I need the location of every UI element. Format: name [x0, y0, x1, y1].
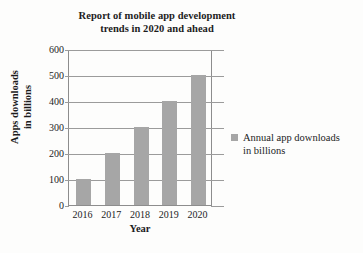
bar: [191, 75, 206, 205]
y-axis-tick-mark-right: [211, 50, 224, 51]
y-axis-tick-label: 300: [38, 123, 64, 133]
bar: [162, 101, 177, 205]
x-axis-title: Year: [68, 223, 212, 235]
y-axis-tick-mark-right: [211, 128, 224, 129]
gridline: [69, 102, 211, 103]
y-axis-tick-label: 400: [38, 97, 64, 107]
y-axis-tick-mark-right: [211, 180, 224, 181]
gridline: [69, 50, 211, 51]
y-axis-tick-mark-right: [211, 154, 224, 155]
y-axis-tick-mark: [65, 102, 69, 103]
y-axis-tick-mark: [65, 206, 69, 207]
chart-title: Report of mobile app development trends …: [46, 9, 268, 35]
y-axis-tick-label: 200: [38, 149, 64, 159]
y-axis-tick-label: 500: [38, 71, 64, 81]
x-axis-tick-labels: 20162017201820192020: [68, 209, 212, 223]
y-axis-tick-mark: [65, 154, 69, 155]
y-axis-tick-mark: [65, 76, 69, 77]
bar: [105, 153, 120, 205]
y-axis-tick-mark: [65, 180, 69, 181]
y-axis-tick-mark-right: [211, 102, 224, 103]
plot-area: [68, 50, 212, 206]
y-axis-tick-labels: 0100200300400500600: [36, 50, 64, 206]
x-axis-tick-label: 2020: [181, 209, 215, 221]
bar: [134, 127, 149, 205]
bar-chart-figure: Report of mobile app development trends …: [0, 0, 363, 253]
legend-swatch-icon: [231, 134, 238, 141]
y-axis-tick-mark: [65, 50, 69, 51]
y-axis-tick-mark: [65, 128, 69, 129]
bar: [76, 179, 91, 205]
y-axis-title: Apps downloads in billions: [8, 52, 34, 162]
y-axis-tick-mark-right: [211, 206, 224, 207]
gridline: [69, 76, 211, 77]
y-axis-tick-label: 100: [38, 175, 64, 185]
legend-label: Annual app downloads in billions: [243, 131, 340, 157]
y-axis-tick-mark-right: [211, 76, 224, 77]
y-axis-tick-label: 600: [38, 45, 64, 55]
chart-legend: Annual app downloads in billions: [231, 131, 340, 157]
y-axis-tick-label: 0: [38, 201, 64, 211]
